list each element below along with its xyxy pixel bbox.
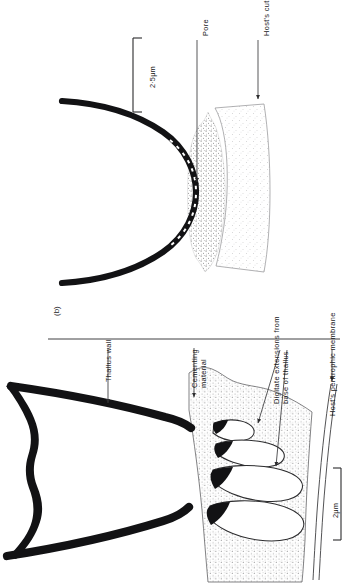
scale-bar-top xyxy=(133,38,142,112)
top-panel-artwork xyxy=(62,38,270,283)
thallus-wall-bottom-ragged-edge xyxy=(6,383,42,559)
diagram-artwork xyxy=(0,0,362,584)
figure-canvas: Pore Host's cuticle 2·5μm (b) Thallus wa… xyxy=(0,0,362,584)
label-pore: Pore xyxy=(201,19,210,36)
label-digitate-extensions-line2: base of thallus xyxy=(281,351,290,404)
label-hosts-peritrophic-membrane: Host's peritrophic membrane xyxy=(328,312,337,416)
label-cementing-material-line2: material xyxy=(199,359,208,388)
label-thallus-wall: Thallus wall xyxy=(104,339,113,382)
thallus-wall-top xyxy=(62,101,196,283)
scale-bar-top-label: 2·5μm xyxy=(148,66,157,88)
label-digitate-extensions-line1: Digitate extensions from xyxy=(272,316,281,404)
label-cementing-material-line1: Cementing xyxy=(190,349,199,388)
bottom-panel-artwork xyxy=(6,348,341,582)
label-hosts-cuticle: Host's cuticle xyxy=(262,0,271,36)
panel-tag-b: (b) xyxy=(52,306,61,316)
scale-bar-bottom-label: 2μm xyxy=(331,503,340,518)
thallus-wall-bottom xyxy=(11,386,191,428)
